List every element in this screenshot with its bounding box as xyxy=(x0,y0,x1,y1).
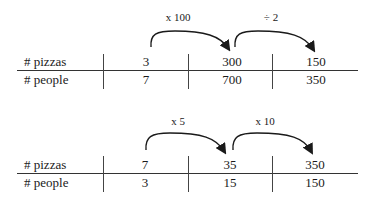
cell-pizzas: 35 xyxy=(224,158,237,172)
table-divider-vertical xyxy=(272,156,273,192)
cell-people: 3 xyxy=(142,176,149,190)
cell-pizzas: 300 xyxy=(222,55,242,69)
operation-label: x 5 xyxy=(171,114,185,128)
operation-label: ÷ 2 xyxy=(264,10,278,24)
table-divider-vertical xyxy=(103,156,104,192)
table-divider-vertical xyxy=(103,54,104,89)
table-divider-vertical xyxy=(272,54,273,89)
operation-label: x 100 xyxy=(166,10,191,24)
cell-pizzas: 7 xyxy=(142,158,149,172)
cell-people: 7 xyxy=(143,73,150,87)
ratio-table-1: x 100 ÷ 2 # pizzas # people 3 7 300 700 … xyxy=(0,0,372,100)
cell-pizzas: 150 xyxy=(306,55,326,69)
cell-people: 15 xyxy=(224,176,237,190)
cell-people: 700 xyxy=(222,73,242,87)
row-label-people: # people xyxy=(24,73,68,87)
cell-people: 150 xyxy=(305,176,325,190)
arrow-icon xyxy=(151,31,228,48)
arrow-icon xyxy=(235,31,313,49)
table-divider-vertical xyxy=(188,54,189,89)
table-divider-vertical xyxy=(188,156,189,192)
cell-people: 350 xyxy=(306,73,326,87)
row-label-pizzas: # pizzas xyxy=(24,158,66,172)
cell-pizzas: 3 xyxy=(143,55,150,69)
operation-label: x 10 xyxy=(255,114,274,128)
cell-pizzas: 350 xyxy=(305,158,325,172)
row-label-people: # people xyxy=(24,176,68,190)
row-label-pizzas: # pizzas xyxy=(24,55,66,69)
ratio-table-2: x 5 x 10 # pizzas # people 7 3 35 15 350… xyxy=(0,100,372,200)
arrow-icon xyxy=(146,133,224,151)
arrow-icon xyxy=(233,133,311,151)
